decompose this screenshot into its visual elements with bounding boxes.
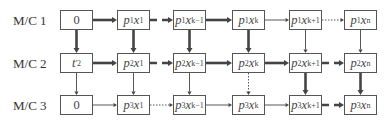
cell-box-r2-c4: p2xk xyxy=(232,53,265,73)
machine-label-2: M/C 2 xyxy=(13,56,47,72)
cell-box-r1-c1: 0 xyxy=(60,10,93,30)
cell-box-r3-c6: p3xn xyxy=(344,95,377,115)
cell-box-r2-c5: p2xk+1 xyxy=(289,53,322,73)
cell-box-r2-c1: t′2 xyxy=(60,53,93,73)
machine-label-1: M/C 1 xyxy=(13,13,47,29)
cell-box-r2-c3: p2xk−1 xyxy=(173,53,206,73)
cell-box-r1-c5: p1xk+1 xyxy=(289,10,322,30)
cell-box-r3-c1: 0 xyxy=(60,95,93,115)
schedule-diagram: M/C 1 M/C 2 M/C 3 0p1x1p1xk−1p1xkp1xk+1p… xyxy=(0,0,386,121)
machine-label-3: M/C 3 xyxy=(13,98,47,114)
cell-box-r3-c2: p3x1 xyxy=(117,95,150,115)
cell-box-r2-c2: p2x1 xyxy=(117,53,150,73)
cell-box-r3-c4: p3xk xyxy=(232,95,265,115)
cell-box-r2-c6: p2xn xyxy=(344,53,377,73)
cell-box-r1-c3: p1xk−1 xyxy=(173,10,206,30)
cell-box-r3-c5: p3xk+1 xyxy=(289,95,322,115)
cell-box-r1-c4: p1xk xyxy=(232,10,265,30)
cell-box-r3-c3: p3xk−1 xyxy=(173,95,206,115)
cell-box-r1-c2: p1x1 xyxy=(117,10,150,30)
cell-box-r1-c6: p1xn xyxy=(344,10,377,30)
